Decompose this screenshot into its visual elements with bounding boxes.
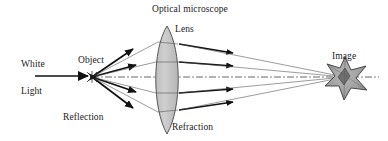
object-label: Object bbox=[78, 56, 104, 66]
reflection-label: Reflection bbox=[63, 113, 104, 123]
lens-label: Lens bbox=[175, 25, 194, 35]
refraction-label: Refraction bbox=[172, 123, 213, 133]
white-label: White bbox=[21, 60, 45, 70]
optical-microscope-diagram: Optical microscope Lens Object White Lig… bbox=[0, 0, 388, 141]
light-label: Light bbox=[21, 87, 42, 97]
object-point bbox=[87, 71, 97, 83]
diagram-title: Optical microscope bbox=[152, 5, 228, 15]
lens bbox=[156, 26, 179, 134]
diagram-canvas bbox=[0, 0, 388, 141]
image-label: Image bbox=[332, 52, 356, 62]
